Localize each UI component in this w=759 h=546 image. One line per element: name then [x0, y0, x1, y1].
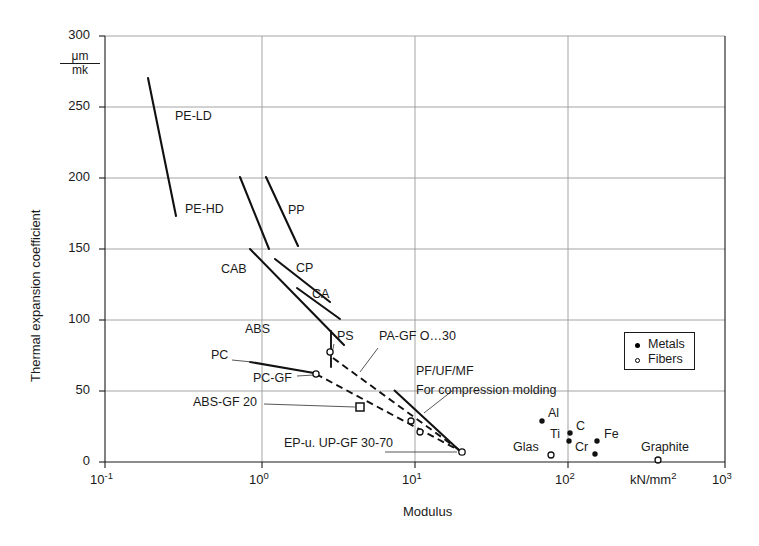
- marker-gf-mid-1: [408, 418, 414, 424]
- y-unit-numerator: μm: [60, 50, 100, 64]
- chart-container: 300 250 200 150 100 50 0 μm mk 10-1 100 …: [0, 0, 759, 546]
- legend-entry-metals: Metals: [631, 336, 685, 351]
- annotation-cp: CP: [296, 262, 313, 275]
- x-axis-unit-note: kN/mm2: [630, 470, 676, 487]
- leader-pa-gf: [360, 348, 378, 372]
- y-tick-label-200: 200: [46, 169, 90, 184]
- leader-pc: [232, 360, 252, 362]
- annotation-abs: ABS: [245, 323, 270, 336]
- annotation-pc: PC: [211, 349, 228, 362]
- annotation-cr: Cr: [575, 441, 588, 454]
- annotation-ti: Ti: [550, 428, 560, 441]
- legend-label-metals: Metals: [648, 337, 685, 351]
- y-tick-label-100: 100: [46, 311, 90, 326]
- legend: Metals Fibers: [624, 332, 695, 370]
- annotation-abs-gf-20: ABS-GF 20: [193, 396, 257, 409]
- annotation-pp: PP: [288, 204, 305, 217]
- marker-ti: [566, 438, 571, 443]
- annotation-pf-uf-mf: PF/UF/MF: [416, 365, 474, 378]
- marker-c: [567, 430, 572, 435]
- annotation-graphite: Graphite: [641, 441, 689, 454]
- marker-glas: [548, 452, 554, 458]
- chart-canvas: [0, 0, 759, 546]
- x-tick-label-1e1: 101: [402, 470, 422, 487]
- leader-abs-gf-20: [264, 404, 355, 407]
- x-tick-label-1e-1: 10-1: [90, 470, 113, 487]
- annotation-compression-molding: For compression molding: [416, 384, 556, 397]
- annotation-cab: CAB: [221, 263, 247, 276]
- annotation-ca: CA: [312, 288, 329, 301]
- annotation-pe-ld: PE-LD: [175, 110, 212, 123]
- series-line-pe-hd: [240, 177, 269, 249]
- marker-cr: [592, 451, 597, 456]
- y-tick-label-0: 0: [46, 453, 90, 468]
- marker-pc-gf: [313, 371, 319, 377]
- y-unit-denominator: mk: [60, 64, 100, 77]
- x-tick-label-1e2: 102: [555, 470, 575, 487]
- marker-gf-end: [459, 449, 465, 455]
- legend-label-fibers: Fibers: [648, 352, 683, 366]
- y-tick-label-150: 150: [46, 240, 90, 255]
- marker-abs-gf-20: [356, 403, 364, 411]
- annotation-glas: Glas: [513, 441, 539, 454]
- annotation-ps: PS: [337, 330, 354, 343]
- y-tick-label-300: 300: [46, 27, 90, 42]
- series-line-pe-ld: [148, 78, 176, 216]
- marker-graphite: [655, 457, 661, 463]
- annotation-c: C: [576, 420, 585, 433]
- y-tick-label-50: 50: [46, 382, 90, 397]
- y-tick-label-250: 250: [46, 98, 90, 113]
- y-axis-title: Thermal expansion coefficient: [28, 210, 43, 382]
- annotation-al: Al: [548, 407, 559, 420]
- marker-gf-mid-2: [417, 429, 423, 435]
- annotation-fe: Fe: [604, 428, 619, 441]
- annotation-pc-gf: PC-GF: [253, 372, 292, 385]
- series-line-compression-molding: [394, 390, 461, 452]
- annotation-pe-hd: PE-HD: [185, 203, 224, 216]
- y-axis-unit: μm mk: [60, 50, 100, 77]
- filled-circle-icon: [631, 337, 644, 351]
- annotation-pa-gf: PA-GF O…30: [379, 330, 456, 343]
- marker-fe: [594, 438, 599, 443]
- open-circle-icon: [631, 352, 644, 366]
- x-tick-label-1e3: 103: [712, 470, 732, 487]
- annotation-ep-up-gf: EP-u. UP-GF 30-70: [284, 437, 393, 450]
- marker-ps: [327, 349, 333, 355]
- marker-al: [539, 418, 544, 423]
- x-tick-label-1e0: 100: [249, 470, 269, 487]
- legend-entry-fibers: Fibers: [631, 351, 685, 366]
- x-axis-title: Modulus: [403, 504, 452, 519]
- leader-pc-gf: [297, 375, 314, 376]
